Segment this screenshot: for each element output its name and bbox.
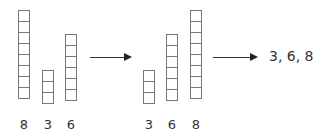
label-6: 6 — [61, 117, 81, 132]
block — [143, 92, 155, 104]
label-3: 3 — [38, 117, 58, 132]
stack-6 — [65, 34, 77, 100]
stack-3 — [42, 70, 54, 103]
label-3-sorted: 3 — [139, 117, 159, 132]
stack-6-sorted — [166, 34, 178, 100]
label-8: 8 — [14, 117, 34, 132]
block — [42, 92, 54, 104]
block — [166, 89, 178, 101]
label-8-sorted: 8 — [186, 117, 206, 132]
label-6-sorted: 6 — [162, 117, 182, 132]
block — [65, 89, 77, 101]
stack-8 — [18, 10, 30, 98]
arrow-icon — [213, 57, 256, 58]
block — [190, 87, 202, 99]
stack-8-sorted — [190, 10, 202, 98]
block — [18, 87, 30, 99]
result-text: 3, 6, 8 — [269, 48, 314, 64]
arrow-icon — [90, 57, 130, 58]
stack-3-sorted — [143, 70, 155, 103]
